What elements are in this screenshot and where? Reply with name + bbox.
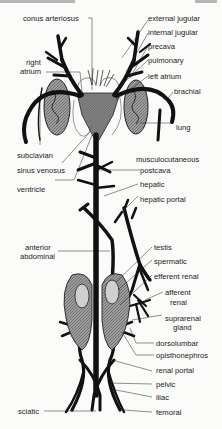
label-precava: precava xyxy=(148,43,175,51)
heart xyxy=(73,68,122,140)
label-afferent-renal-line1: afferent xyxy=(165,289,191,297)
diagram-page: conus arteriosus external jugular intern… xyxy=(0,0,222,429)
label-efferent-renal: efferent renal xyxy=(154,273,199,281)
label-femoral: femoral xyxy=(156,409,181,417)
label-subclavian: subclavian xyxy=(17,152,53,160)
label-afferent-renal-line2: renal xyxy=(170,299,187,307)
label-renal-portal: renal portal xyxy=(156,367,194,375)
label-opisthonephros: opisthonephros xyxy=(156,352,208,360)
label-lung: lung xyxy=(176,124,190,132)
label-internal-jugular: internal jugular xyxy=(148,29,198,37)
label-brachial: brachial xyxy=(174,88,201,96)
label-musculocutaneous: musculocutaneous xyxy=(136,156,199,164)
label-suprarenal-line1: suprarenal xyxy=(165,315,201,323)
label-dorsolumbar: dorsolumbar xyxy=(156,340,198,348)
label-sinus-venosus: sinus venosus xyxy=(17,167,65,175)
label-pelvic: pelvic xyxy=(156,381,175,389)
label-pulmonary: pulmonary xyxy=(148,57,183,65)
label-iliac: iliac xyxy=(156,394,169,402)
label-hepatic: hepatic xyxy=(140,181,165,189)
label-postcava: postcava xyxy=(140,167,170,175)
label-left-atrium: left atrium xyxy=(148,73,181,81)
label-anterior-abdominal-line1: anterior xyxy=(25,244,51,252)
label-right-atrium-line2: atrium xyxy=(20,68,41,76)
label-right-atrium-line1: right xyxy=(26,59,41,67)
label-testis: testis xyxy=(154,244,172,252)
label-ventricle: ventricle xyxy=(17,186,45,194)
label-spermatic: spermatic xyxy=(154,258,187,266)
label-suprarenal-line2: gland xyxy=(173,324,192,332)
label-anterior-abdominal-line2: abdominal xyxy=(20,253,55,261)
label-sciatic: sciatic xyxy=(18,408,39,416)
label-hepatic-portal: hepatic portal xyxy=(140,196,186,204)
label-external-jugular: external jugular xyxy=(148,15,200,23)
label-conus-arteriosus: conus arteriosus xyxy=(23,15,79,23)
